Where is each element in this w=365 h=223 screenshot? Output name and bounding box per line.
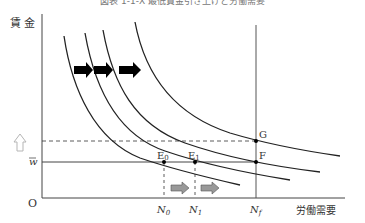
- origin-label: O: [28, 197, 37, 210]
- labor-demand-diagram: 賃 金 労働需要 O w E0 E1 F G N0 N1 Nf: [0, 0, 365, 223]
- up-arrow-icon: [14, 134, 26, 151]
- demand-curve-4: [135, 22, 340, 156]
- label-n0: N0: [156, 204, 171, 217]
- label-nf: Nf: [249, 204, 263, 217]
- right-arrow-icon: [201, 182, 219, 194]
- label-f: F: [259, 150, 266, 161]
- shift-arrows-black: [74, 62, 141, 78]
- right-arrow-icon: [74, 62, 93, 78]
- right-arrow-icon: [171, 182, 189, 194]
- y-axis-label: 賃 金: [10, 16, 36, 30]
- point-g: [254, 139, 258, 143]
- x-axis-label: 労働需要: [296, 204, 336, 216]
- label-e1: E1: [188, 150, 200, 162]
- label-n1: N1: [188, 204, 202, 217]
- right-arrow-icon: [94, 62, 113, 78]
- wage-label: w: [29, 156, 38, 167]
- demand-curve-3: [103, 30, 320, 172]
- right-arrow-icon: [119, 62, 141, 78]
- point-f: [254, 160, 258, 164]
- label-g: G: [259, 129, 267, 140]
